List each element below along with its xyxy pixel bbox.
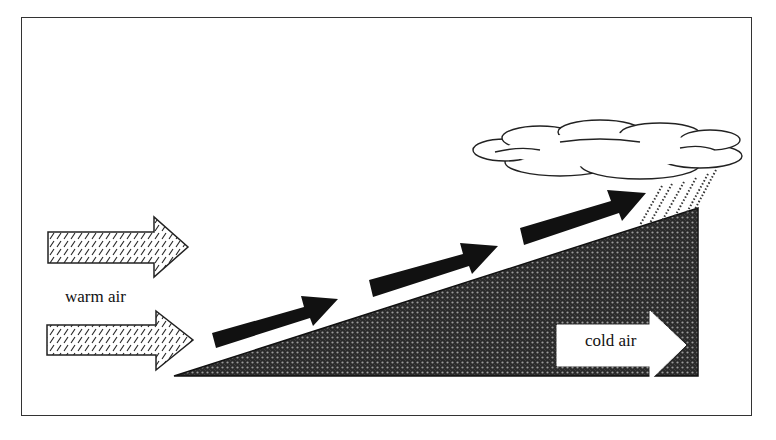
warm-air-arrow-bottom xyxy=(47,311,193,370)
cloud xyxy=(473,120,742,179)
cold-air-label: cold air xyxy=(585,331,636,351)
warm-front-diagram xyxy=(0,0,776,440)
warm-air-arrow-top xyxy=(48,217,188,277)
warm-air-label: warm air xyxy=(65,287,126,307)
